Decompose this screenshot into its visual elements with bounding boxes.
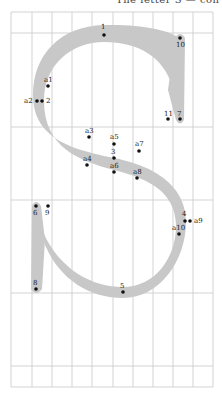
point-label-1: 1 <box>101 23 105 31</box>
point-label-a6: a6 <box>110 162 119 170</box>
point-marker-a7 <box>137 149 141 153</box>
point-label-a2: a2 <box>24 97 33 105</box>
point-marker-a3 <box>87 135 91 139</box>
point-marker-3 <box>112 156 116 160</box>
letter-s-construction-diagram: 110a1a22117a3a5a73a4a6a8694a9a1085 <box>0 0 222 394</box>
point-label-3: 3 <box>111 148 115 156</box>
point-label-8: 8 <box>33 279 37 287</box>
point-label-a10: a10 <box>172 224 185 232</box>
point-marker-a6 <box>112 170 116 174</box>
point-marker-a10 <box>177 232 181 236</box>
point-label-10: 10 <box>176 41 185 49</box>
point-label-a9: a9 <box>194 217 203 225</box>
point-label-a3: a3 <box>85 127 94 135</box>
point-marker-a5 <box>112 142 116 146</box>
point-marker-9 <box>46 204 50 208</box>
point-label-a7: a7 <box>135 140 144 148</box>
point-label-9: 9 <box>45 209 49 217</box>
point-marker-a1 <box>46 84 50 88</box>
point-label-a1: a1 <box>44 76 53 84</box>
point-label-7: 7 <box>177 110 181 118</box>
point-label-4: 4 <box>182 210 187 218</box>
point-marker-a8 <box>135 176 139 180</box>
point-marker-6 <box>34 204 38 208</box>
point-marker-a4 <box>85 163 89 167</box>
point-marker-10 <box>178 36 182 40</box>
point-label-2: 2 <box>46 97 50 105</box>
point-label-11: 11 <box>164 110 173 118</box>
point-label-a5: a5 <box>110 133 119 141</box>
point-label-6: 6 <box>33 209 38 217</box>
point-label-a8: a8 <box>133 168 142 176</box>
point-label-a4: a4 <box>83 155 92 163</box>
point-marker-a2 <box>35 99 39 103</box>
point-marker-5 <box>121 290 125 294</box>
point-label-5: 5 <box>120 282 124 290</box>
point-marker-1 <box>102 33 106 37</box>
point-marker-8 <box>34 287 38 291</box>
point-marker-4 <box>183 219 187 223</box>
point-marker-2 <box>40 99 44 103</box>
glyph-s-shape <box>31 25 186 298</box>
point-marker-a9 <box>188 219 192 223</box>
